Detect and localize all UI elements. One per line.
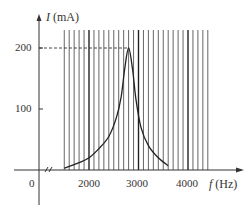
y-axis-unit: (mA) [53,10,79,24]
y-tick-200: 200 [15,41,32,53]
resonance-chart [0,0,249,207]
x-tick-3000: 3000 [126,177,148,189]
y-axis-arrow-icon [37,14,42,21]
x-tick-4000: 4000 [176,177,198,189]
y-tick-100: 100 [15,102,32,114]
x-axis-label: f (Hz) [209,177,237,192]
x-tick-2000: 2000 [78,177,100,189]
y-axis-label: I (mA) [46,10,79,25]
x-axis-symbol: f [209,177,212,191]
x-tick-0: 0 [29,177,35,189]
x-axis-arrow-icon [236,168,244,173]
y-axis-symbol: I [46,10,50,24]
resonance-curve [64,48,168,168]
x-axis-unit: (Hz) [215,177,237,191]
